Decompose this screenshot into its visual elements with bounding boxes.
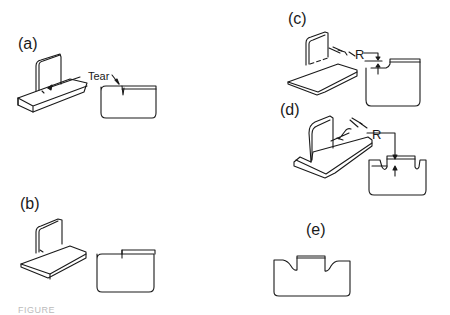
panel-c-flat-pattern <box>366 59 420 106</box>
panel-c-label: (c) <box>288 11 307 27</box>
panel-d-dimension-r: R <box>372 128 381 141</box>
panel-c-dimension <box>364 53 382 74</box>
panel-b-flat-pattern <box>97 250 155 292</box>
panel-a-isometric <box>18 54 87 112</box>
panel-a-label: (a) <box>18 36 38 52</box>
panel-c-dimension-r: R <box>355 48 364 61</box>
tear-callout: Tear <box>88 71 109 82</box>
panel-c-isometric <box>288 32 357 95</box>
panel-e-label: (e) <box>306 222 326 238</box>
panel-d-label: (d) <box>280 102 300 118</box>
panel-d-isometric <box>294 116 372 178</box>
panel-d-flat-pattern <box>369 156 426 195</box>
panel-b-label: (b) <box>20 196 40 212</box>
figure-caption-clipped: FIGURE <box>18 305 55 315</box>
panel-e-flat-pattern <box>274 256 350 296</box>
panel-b-isometric <box>21 219 86 279</box>
